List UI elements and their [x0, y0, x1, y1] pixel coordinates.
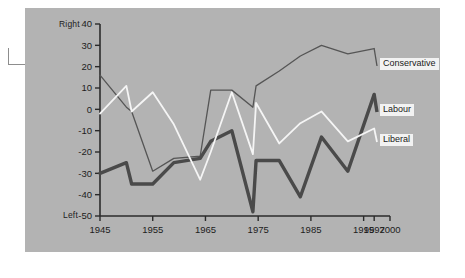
axis-pole-right-label: Right: [59, 19, 80, 29]
series-line-labour: [100, 94, 374, 211]
y-tick-label: 0: [87, 104, 92, 115]
series-line-liberal: [100, 86, 374, 180]
y-tick-label: 40: [81, 18, 92, 29]
legend-label-conservative: Conservative: [380, 58, 439, 70]
registration-crop-mark: [8, 48, 25, 65]
x-tick-label: 1975: [248, 224, 269, 235]
y-tick-label: 30: [81, 40, 92, 51]
y-tick-label: -20: [78, 146, 92, 157]
line-chart-svg: 403020100-10-20-30-40-501945195519651975…: [25, 8, 440, 252]
axis-pole-left-label: Left: [63, 210, 78, 220]
y-tick-label: -30: [78, 168, 92, 179]
x-tick-label: 2000: [379, 224, 400, 235]
legend-leader-labour: [374, 94, 377, 112]
chart-panel: 403020100-10-20-30-40-501945195519651975…: [25, 8, 440, 252]
figure-root: 403020100-10-20-30-40-501945195519651975…: [0, 0, 465, 278]
plot-area: 403020100-10-20-30-40-501945195519651975…: [25, 8, 440, 252]
x-tick-label: 1965: [195, 224, 216, 235]
x-tick-label: 1955: [142, 224, 163, 235]
y-tick-label: -50: [78, 210, 92, 221]
y-tick-label: 20: [81, 61, 92, 72]
legend-leader-conservative: [374, 49, 377, 66]
x-tick-label: 1945: [89, 224, 110, 235]
legend-label-liberal: Liberal: [380, 134, 413, 146]
y-tick-label: 10: [81, 82, 92, 93]
legend-label-labour: Labour: [380, 104, 414, 116]
legend-leader-liberal: [374, 129, 377, 142]
y-tick-label: -10: [78, 125, 92, 136]
x-tick-label: 1985: [300, 224, 321, 235]
y-tick-label: -40: [78, 189, 92, 200]
